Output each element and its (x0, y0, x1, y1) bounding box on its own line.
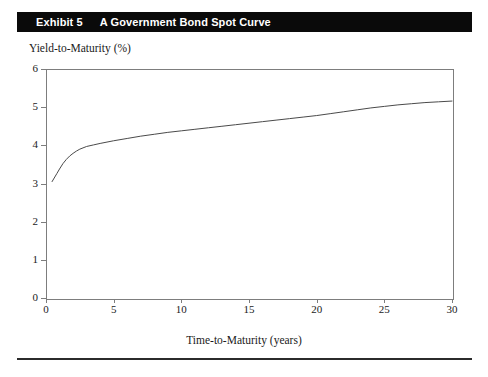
y-tick-mark (41, 145, 46, 146)
y-tick-label: 4 (20, 139, 38, 150)
x-tick-label: 25 (369, 303, 399, 316)
x-tick-label: 20 (302, 303, 332, 316)
x-tick-label: 30 (437, 303, 467, 316)
exhibit-figure: Exhibit 5 A Government Bond Spot Curve Y… (0, 0, 488, 377)
y-tick-mark (41, 222, 46, 223)
spot-curve-line (52, 101, 452, 182)
y-tick-mark (41, 69, 46, 70)
y-tick-label: 3 (20, 178, 38, 189)
spot-curve-plot (46, 69, 452, 298)
y-tick-mark (41, 107, 46, 108)
x-tick-label: 15 (234, 303, 264, 316)
bottom-divider-rule (17, 358, 472, 360)
exhibit-title-text: A Government Bond Spot Curve (100, 16, 271, 28)
y-tick-label: 0 (20, 292, 38, 303)
y-tick-mark (41, 260, 46, 261)
x-tick-label: 5 (99, 303, 129, 316)
y-tick-label: 2 (20, 216, 38, 227)
y-tick-label: 6 (20, 63, 38, 74)
exhibit-title-banner: Exhibit 5 A Government Bond Spot Curve (17, 12, 472, 32)
y-tick-label: 1 (20, 254, 38, 265)
x-tick-label: 0 (31, 303, 61, 316)
exhibit-number-label: Exhibit 5 (36, 16, 83, 28)
y-tick-label: 5 (20, 101, 38, 112)
x-axis-title: Time-to-Maturity (years) (0, 334, 488, 346)
y-tick-mark (41, 184, 46, 185)
y-axis-title: Yield-to-Maturity (%) (29, 42, 131, 54)
x-tick-label: 10 (166, 303, 196, 316)
